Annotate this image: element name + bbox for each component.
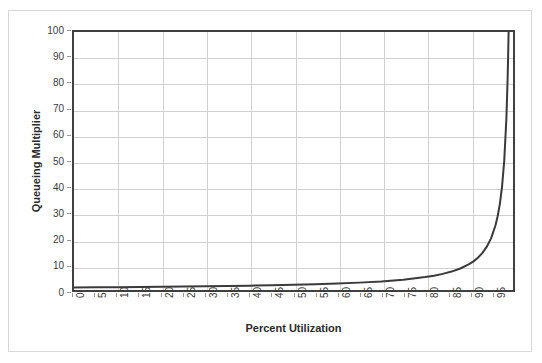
x-tick-mark <box>404 293 405 297</box>
x-tick-label: 30 <box>209 287 219 298</box>
x-axis-title: Percent Utilization <box>72 322 515 334</box>
x-tick-mark <box>338 293 339 297</box>
x-tick-label: 55 <box>320 287 330 298</box>
x-tick-mark <box>183 293 184 297</box>
x-tick-label: 80 <box>430 287 440 298</box>
x-tick-label: 70 <box>386 287 396 298</box>
plot-wrapper: 1009080706050403020100 05101520253035404… <box>0 0 542 363</box>
x-tick-label: 65 <box>364 287 374 298</box>
x-tick-mark <box>72 293 73 297</box>
x-tick-mark <box>94 293 95 297</box>
x-tick-label: 95 <box>497 287 507 298</box>
x-tick-label: 15 <box>142 287 152 298</box>
x-tick-mark <box>426 293 427 297</box>
x-tick-mark <box>294 293 295 297</box>
x-tick-label: 90 <box>475 287 485 298</box>
x-tick-mark <box>205 293 206 297</box>
x-tick-label: 60 <box>342 287 352 298</box>
x-tick-mark <box>271 293 272 297</box>
x-tick-mark <box>116 293 117 297</box>
x-tick-mark <box>138 293 139 297</box>
x-tick-mark <box>493 293 494 297</box>
x-tick-mark <box>316 293 317 297</box>
x-tick-mark <box>471 293 472 297</box>
y-axis-title: Queueing Multiplier <box>30 30 42 292</box>
x-tick-mark <box>249 293 250 297</box>
x-tick-label: 5 <box>98 292 108 298</box>
x-tick-label: 20 <box>165 287 175 298</box>
x-tick-label: 85 <box>453 287 463 298</box>
x-tick-mark <box>382 293 383 297</box>
x-tick-label: 50 <box>298 287 308 298</box>
y-axis-title-text: Queueing Multiplier <box>30 30 42 292</box>
x-tick-label: 10 <box>120 287 130 298</box>
chart-figure: 1009080706050403020100 05101520253035404… <box>0 0 542 363</box>
x-tick-label: 0 <box>76 292 86 298</box>
x-tick-mark <box>161 293 162 297</box>
x-tick-label: 25 <box>187 287 197 298</box>
x-tick-mark <box>360 293 361 297</box>
x-tick-label: 40 <box>253 287 263 298</box>
x-tick-mark <box>449 293 450 297</box>
x-tick-label: 45 <box>275 287 285 298</box>
x-tick-label: 35 <box>231 287 241 298</box>
x-axis-ticks: 05101520253035404550556065707580859095 <box>0 0 542 363</box>
x-tick-label: 75 <box>408 287 418 298</box>
x-tick-mark <box>227 293 228 297</box>
